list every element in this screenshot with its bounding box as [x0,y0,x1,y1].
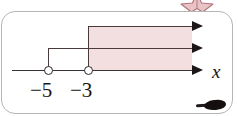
middle-ray-line [48,48,193,49]
axis-label-x: x [212,62,220,81]
middle-ray-arrowhead [192,43,203,53]
open-endpoint-minus-3 [84,66,93,75]
open-endpoint-minus-5 [44,66,53,75]
number-line-figure: −5 −3 x [0,0,238,116]
number-line-axis [12,70,193,71]
tick-label-minus-3: −3 [70,80,92,101]
tick-label-minus-5: −5 [30,80,52,101]
top-ray-line [88,26,193,27]
top-ray-arrowhead [192,21,203,31]
axis-arrowhead [192,65,203,75]
